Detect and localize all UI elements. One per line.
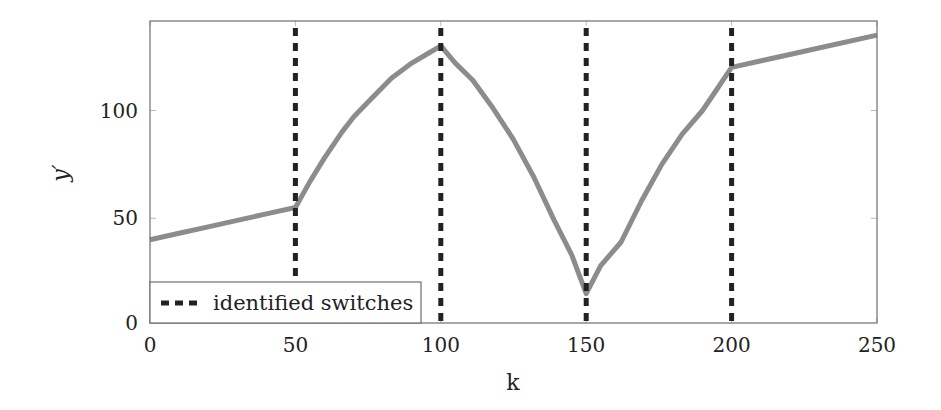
identified-switch-lines	[295, 28, 731, 323]
legend: identified switches	[150, 282, 421, 323]
tick-marks	[150, 21, 877, 323]
plot-area-frame	[150, 21, 877, 323]
x-tick-label: 250	[858, 333, 896, 357]
x-tick-label: 200	[713, 333, 751, 357]
x-tick-label: 100	[422, 333, 460, 357]
data-series-line	[150, 35, 877, 294]
y-axis-label: y′	[48, 164, 73, 182]
chart: 050100150200250 050100 k y′ identified s…	[0, 0, 941, 410]
x-tick-label: 150	[567, 333, 605, 357]
y-tick-label: 100	[100, 99, 138, 123]
x-tick-label: 0	[144, 333, 157, 357]
y-axis-tick-labels: 050100	[100, 99, 138, 336]
series-line	[150, 35, 877, 294]
y-tick-label: 50	[113, 206, 138, 230]
x-axis-tick-labels: 050100150200250	[144, 333, 896, 357]
x-tick-label: 50	[283, 333, 308, 357]
y-tick-label: 0	[125, 311, 138, 335]
legend-label-identified-switches: identified switches	[213, 291, 413, 315]
x-axis-label: k	[506, 370, 520, 395]
line-chart: 050100150200250 050100 k y′ identified s…	[0, 0, 941, 410]
